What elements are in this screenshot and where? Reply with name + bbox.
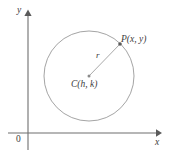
y-axis-arrow-icon <box>24 10 31 17</box>
x-axis-arrow-icon <box>156 129 162 136</box>
x-axis-label: x <box>155 138 159 148</box>
origin-label: 0 <box>16 135 21 145</box>
y-axis-label: y <box>17 6 21 16</box>
point-p-label: P(x, y) <box>121 35 146 45</box>
radius-segment <box>89 44 120 76</box>
circle-diagram: y x 0 r C(h, k) P(x, y) <box>0 0 173 157</box>
center-point-marker <box>88 75 91 78</box>
radius-label: r <box>96 51 100 60</box>
center-label: C(h, k) <box>71 80 97 90</box>
